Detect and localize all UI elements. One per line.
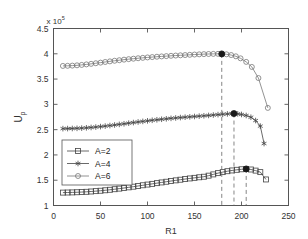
y-tick-label: 1.5: [37, 175, 49, 185]
x-tick-label: 0: [51, 211, 56, 221]
y-tick-label: 2: [44, 150, 49, 160]
legend-label-A-4: A=4: [95, 159, 111, 169]
figure-container: 05010015020025011.522.533.544.5x 105R1Up…: [0, 0, 308, 239]
series-A-6: [60, 51, 270, 110]
peak-marker: [231, 111, 237, 117]
x-tick-label: 100: [140, 211, 154, 221]
peak-marker: [243, 166, 249, 172]
y-tick-label: 3: [44, 99, 49, 109]
y-tick-label: 2.5: [37, 125, 49, 135]
legend-label-A-2: A=2: [95, 146, 111, 156]
y-tick-label: 4: [44, 49, 49, 59]
chart-canvas: 05010015020025011.522.533.544.5x 105R1Up…: [0, 0, 308, 239]
x-tick-label: 200: [234, 211, 248, 221]
x-axis-label: R1: [165, 226, 177, 236]
y-tick-label: 3.5: [37, 74, 49, 84]
legend-label-A-6: A=6: [95, 171, 111, 181]
peak-marker: [219, 51, 225, 57]
x-tick-label: 150: [187, 211, 201, 221]
y-exponent-label: x 105: [47, 15, 65, 25]
x-tick-label: 50: [96, 211, 106, 221]
y-tick-label: 1: [44, 201, 49, 211]
x-tick-label: 250: [281, 211, 295, 221]
y-axis-label: Up: [13, 111, 27, 122]
legend: A=2A=4A=6: [62, 140, 132, 185]
